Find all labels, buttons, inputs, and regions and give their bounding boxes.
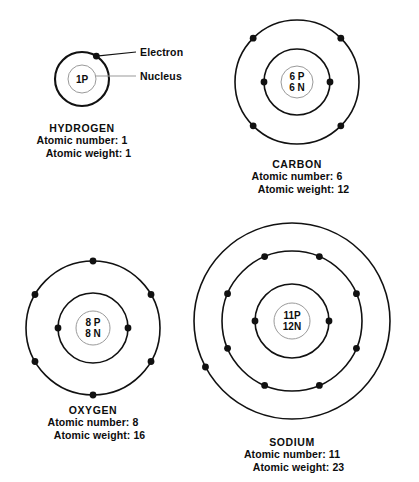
electron-leader-line (96, 52, 136, 56)
diagram-canvas: 1PHYDROGENAtomic number: 1Atomic weight:… (0, 0, 419, 482)
electron-callout-label: Electron (140, 46, 183, 58)
callout-leader-lines (0, 0, 419, 482)
nucleus-callout-label: Nucleus (140, 70, 182, 82)
